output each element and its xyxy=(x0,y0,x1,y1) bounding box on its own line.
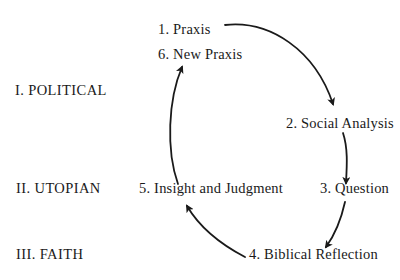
cycle-arrows xyxy=(0,0,400,280)
arrow-praxis-to-social-analysis-icon xyxy=(225,24,333,104)
arrow-social-analysis-to-question-icon xyxy=(343,133,347,183)
arrow-question-to-biblical-reflection-icon xyxy=(326,202,345,247)
arrow-biblical-reflection-to-insight-icon xyxy=(187,206,245,257)
arrow-insight-to-new-praxis-icon xyxy=(170,67,182,184)
